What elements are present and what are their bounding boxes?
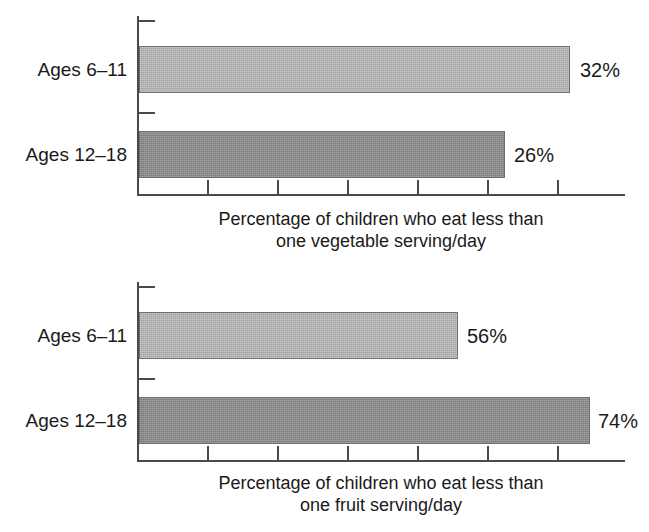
category-label-text: Ages 6–11 [38,325,127,346]
y-axis-tick-1 [139,20,155,22]
value-label-ages-12-18: 74% [598,410,638,433]
category-label-text: Ages 12–18 [26,410,127,431]
caption-line-1: Percentage of children who eat less than [137,472,625,494]
x-axis-tick-3 [347,180,349,194]
x-axis-tick-6 [557,180,559,194]
bar-ages-6-11 [139,312,458,359]
x-axis-tick-5 [487,446,489,460]
x-axis-tick-1 [207,446,209,460]
x-axis-tick-2 [277,180,279,194]
chart-caption-fruit: Percentage of children who eat less than… [137,472,625,516]
category-label-text: Ages 6–11 [38,59,127,80]
category-label-text: Ages 12–18 [26,144,127,165]
x-axis-line [137,194,625,196]
x-axis-tick-1 [207,180,209,194]
x-axis-tick-2 [277,446,279,460]
x-axis-line [137,460,625,462]
caption-line-2: one vegetable serving/day [137,230,625,252]
caption-line-1: Percentage of children who eat less than [137,208,625,230]
category-label-ages-12-18: Ages 12–18 [0,144,127,166]
y-axis-tick-1 [139,286,155,288]
bar-ages-6-11 [139,46,570,93]
plot-area-vegetable: Ages 6–11 Ages 12–18 32% 26% [0,0,649,210]
y-axis-tick-2 [139,112,155,114]
chart-caption-vegetable: Percentage of children who eat less than… [137,208,625,252]
x-axis-tick-3 [347,446,349,460]
chart-fruit-serving: Ages 6–11 Ages 12–18 56% 74% Percentage … [0,266,649,532]
x-axis-tick-5 [487,180,489,194]
y-axis-tick-2 [139,378,155,380]
bar-ages-12-18 [139,131,505,178]
chart-vegetable-serving: Ages 6–11 Ages 12–18 32% 26% Percentage … [0,0,649,266]
value-label-ages-6-11: 56% [467,325,507,348]
x-axis-tick-4 [417,446,419,460]
x-axis-tick-6 [557,446,559,460]
category-label-ages-6-11: Ages 6–11 [0,325,127,347]
bar-ages-12-18 [139,397,590,444]
value-label-ages-6-11: 32% [580,59,620,82]
value-label-ages-12-18: 26% [514,144,554,167]
category-label-ages-12-18: Ages 12–18 [0,410,127,432]
x-axis-tick-4 [417,180,419,194]
category-label-ages-6-11: Ages 6–11 [0,59,127,81]
caption-line-2: one fruit serving/day [137,494,625,516]
plot-area-fruit: Ages 6–11 Ages 12–18 56% 74% [0,266,649,476]
